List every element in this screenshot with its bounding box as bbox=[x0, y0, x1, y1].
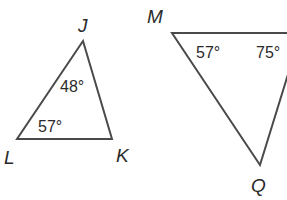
angle-third: 75° bbox=[256, 44, 280, 61]
angle-m: 57° bbox=[196, 44, 220, 61]
vertex-label-q: Q bbox=[251, 175, 266, 196]
angle-l: 57° bbox=[38, 118, 62, 135]
angle-j: 48° bbox=[60, 78, 84, 95]
vertex-label-j: J bbox=[77, 15, 88, 36]
vertex-label-k: K bbox=[116, 145, 130, 166]
vertex-label-m: M bbox=[147, 6, 163, 27]
triangles-diagram: J K L 48° 57° M Q 57° 75° bbox=[0, 0, 287, 200]
vertex-label-l: L bbox=[4, 147, 15, 168]
